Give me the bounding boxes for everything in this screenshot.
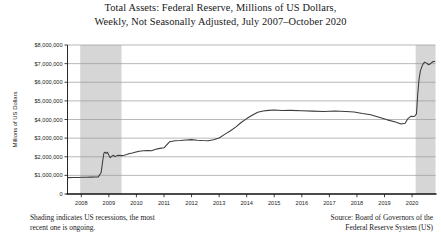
- footnote-area: Shading indicates US recessions, the mos…: [0, 213, 441, 243]
- x-axis-tick-label: 2020: [406, 200, 418, 206]
- x-axis-tick-label: 2012: [185, 200, 197, 206]
- y-axis-tick-label: $7,000,000: [35, 61, 63, 67]
- x-axis-tick-label: 2014: [240, 200, 252, 206]
- x-axis-tick-label: 2010: [130, 200, 142, 206]
- x-axis-tick-label: 2013: [213, 200, 225, 206]
- x-axis-tick-label: 2008: [75, 200, 87, 206]
- recession-note-line-1: Shading indicates US recessions, the mos…: [30, 213, 220, 223]
- title-line-1: Total Assets: Federal Reserve, Millions …: [0, 1, 441, 15]
- y-axis-tick-label: $4,000,000: [35, 117, 63, 123]
- recession-note-line-2: recent one is ongoing.: [30, 223, 220, 233]
- x-axis-tick-label: 2018: [351, 200, 363, 206]
- y-axis-tick-label: $5,000,000: [35, 98, 63, 104]
- source-note-line-1: Source: Board of Governors of the: [258, 213, 433, 223]
- line-chart-svg: 0$1,000,000$2,000,000$3,000,000$4,000,00…: [0, 30, 441, 210]
- page-title: Total Assets: Federal Reserve, Millions …: [0, 1, 441, 29]
- x-axis-tick-label: 2011: [158, 200, 170, 206]
- source-note-line-2: Federal Reserve System (US): [258, 223, 433, 233]
- title-line-2: Weekly, Not Seasonally Adjusted, July 20…: [0, 15, 441, 29]
- recession-note: Shading indicates US recessions, the mos…: [30, 213, 220, 232]
- y-axis-title: Millions of US Dollars: [12, 91, 18, 147]
- y-axis-tick-label: $2,000,000: [35, 154, 63, 160]
- x-axis-tick-label: 2017: [323, 200, 335, 206]
- chart-page: Total Assets: Federal Reserve, Millions …: [0, 0, 441, 243]
- y-axis-tick-label: $8,000,000: [35, 42, 63, 48]
- x-axis-tick-group: 2008200920102011201220132014201520162017…: [75, 194, 418, 206]
- x-axis-tick-label: 2019: [378, 200, 390, 206]
- y-axis-title-group: Millions of US Dollars: [12, 91, 18, 147]
- source-note: Source: Board of Governors of the Federa…: [258, 213, 433, 232]
- x-axis-tick-label: 2016: [296, 200, 308, 206]
- y-axis-tick-label: $1,000,000: [35, 172, 63, 178]
- x-axis-tick-label: 2015: [268, 200, 280, 206]
- y-axis-tick-group: 0$1,000,000$2,000,000$3,000,000$4,000,00…: [35, 42, 68, 197]
- plot-area: 0$1,000,000$2,000,000$3,000,000$4,000,00…: [0, 30, 441, 210]
- y-axis-tick-label: $6,000,000: [35, 79, 63, 85]
- y-axis-tick-label: $3,000,000: [35, 135, 63, 141]
- x-axis-tick-label: 2009: [103, 200, 115, 206]
- y-axis-tick-label: 0: [59, 191, 62, 197]
